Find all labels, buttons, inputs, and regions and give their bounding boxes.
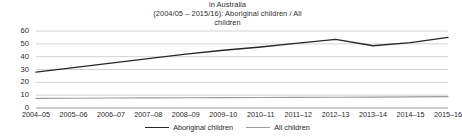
chart-legend: Aboriginal childrenAll children	[0, 123, 455, 132]
legend-line-swatch	[246, 127, 270, 128]
legend-item-1[interactable]: All children	[246, 123, 310, 132]
x-tick-label: 2009–10	[209, 110, 237, 119]
y-axis: 0102030405060	[0, 24, 33, 116]
y-tick-label: 50	[21, 40, 29, 48]
legend-label: Aboriginal children	[173, 123, 233, 132]
legend-item-0[interactable]: Aboriginal children	[145, 123, 233, 132]
series-line-1	[36, 97, 448, 99]
chart-title-line-2: (2004/05 – 2015/16): Aboriginal children…	[0, 9, 455, 18]
chart-title: in Australia (2004/05 – 2015/16): Aborig…	[0, 0, 455, 27]
legend-label: All children	[274, 123, 310, 132]
x-tick-label: 2014–15	[397, 110, 425, 119]
plot-svg	[36, 31, 448, 108]
series-line-0	[36, 37, 448, 72]
x-tick-label: 2008–09	[172, 110, 200, 119]
y-tick-label: 30	[21, 66, 29, 74]
x-tick-label: 2015–16	[434, 110, 462, 119]
x-axis: 2004–052005–062006–072007–082008–092009–…	[36, 110, 448, 122]
chart-title-line-3: children	[0, 18, 455, 27]
plot-area	[36, 31, 448, 108]
series-paths	[36, 37, 448, 98]
x-tick-label: 2005–06	[59, 110, 87, 119]
x-tick-label: 2007–08	[134, 110, 162, 119]
y-tick-label: 10	[21, 91, 29, 99]
y-tick-label: 40	[21, 53, 29, 61]
y-tick-label: 60	[21, 27, 29, 35]
x-tick-label: 2004–05	[22, 110, 50, 119]
x-tick-label: 2012–13	[322, 110, 350, 119]
y-tick-label: 20	[21, 78, 29, 86]
x-tick-label: 2011–12	[284, 110, 311, 119]
chart-title-line-1: in Australia	[0, 0, 455, 9]
x-tick-label: 2010–11	[247, 110, 274, 119]
x-tick-label: 2006–07	[97, 110, 125, 119]
x-tick-label: 2013–14	[359, 110, 387, 119]
legend-line-swatch	[145, 127, 169, 128]
